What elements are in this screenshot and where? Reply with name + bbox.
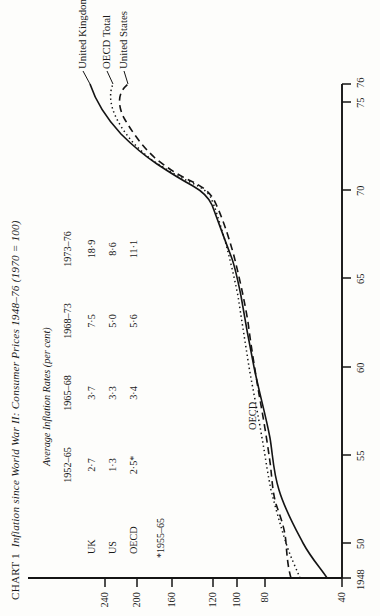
y-axis-label-240: 240 <box>99 592 110 616</box>
chart-figure: CHART 1 Inflation since World War II: Co… <box>0 0 380 616</box>
x-axis-label-70: 70 <box>355 186 366 196</box>
series-line-united-kingdom <box>90 84 327 578</box>
x-axis-label-50: 50 <box>355 539 366 549</box>
leader-united-states <box>124 71 128 84</box>
series-label-oecd-total: OECD Total <box>100 15 112 69</box>
y-axis-label-100: 100 <box>231 592 242 616</box>
chart-page: CHART 1 Inflation since World War II: Co… <box>0 0 380 616</box>
series-label-united-kingdom: United Kingdom <box>76 0 88 69</box>
plot-svg <box>0 0 380 616</box>
annotation-oecd: OECD <box>247 402 258 430</box>
x-axis-label-75: 75 <box>355 98 366 108</box>
leader-united-kingdom <box>83 71 90 84</box>
leader-oecd-total <box>107 71 113 84</box>
y-axis-label-160: 160 <box>166 592 177 616</box>
y-axis-label-120: 120 <box>207 592 218 616</box>
x-axis-label-60: 60 <box>355 363 366 373</box>
series-label-united-states: United States <box>117 11 129 69</box>
series-line-united-states <box>119 84 291 578</box>
x-axis-label-1948: 1948 <box>355 569 366 590</box>
x-axis-label-65: 65 <box>355 274 366 284</box>
y-axis-label-80: 80 <box>259 592 270 614</box>
x-axis-label-76: 76 <box>355 78 366 88</box>
y-axis-label-200: 200 <box>131 592 142 616</box>
x-axis-label-55: 55 <box>355 451 366 461</box>
series-line-oecd-total <box>111 84 300 578</box>
y-axis-label-40: 40 <box>336 592 347 614</box>
